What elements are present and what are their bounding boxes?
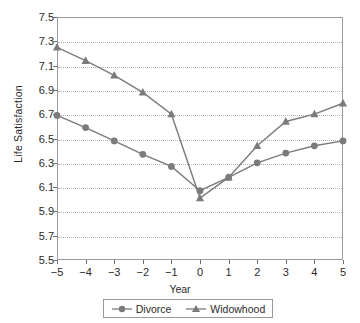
data-point-widowhood--1 bbox=[167, 110, 175, 118]
x-tick-label: 3 bbox=[271, 266, 301, 278]
data-point-divorce-3 bbox=[282, 150, 289, 157]
y-tick-label: 6.1 bbox=[14, 181, 54, 193]
chart-legend: DivorceWidowhood bbox=[103, 299, 273, 318]
y-tick-label: 7.1 bbox=[14, 60, 54, 72]
series-line-widowhood bbox=[57, 47, 343, 198]
x-tick-mark bbox=[229, 260, 230, 264]
legend-label: Widowhood bbox=[210, 303, 265, 315]
y-tick-label: 5.9 bbox=[14, 205, 54, 217]
y-tick-label: 5.7 bbox=[14, 230, 54, 242]
x-tick-mark bbox=[171, 260, 172, 264]
legend-circle-icon bbox=[111, 303, 133, 315]
series-plot-layer bbox=[57, 17, 343, 260]
data-point-divorce--5 bbox=[54, 112, 61, 119]
y-tick-label: 6.3 bbox=[14, 157, 54, 169]
x-tick-label: 2 bbox=[242, 266, 272, 278]
x-tick-mark bbox=[143, 260, 144, 264]
data-point-widowhood--3 bbox=[110, 71, 118, 79]
data-point-widowhood-5 bbox=[339, 99, 347, 107]
x-tick-mark bbox=[200, 260, 201, 264]
legend-entry-divorce[interactable]: Divorce bbox=[111, 303, 172, 315]
x-tick-label: 4 bbox=[299, 266, 329, 278]
x-tick-mark bbox=[343, 260, 344, 264]
x-tick-label: −3 bbox=[99, 266, 129, 278]
x-tick-label: −2 bbox=[128, 266, 158, 278]
data-point-divorce--2 bbox=[139, 151, 146, 158]
y-tick-label: 5.5 bbox=[14, 254, 54, 266]
series-line-divorce bbox=[57, 115, 343, 190]
x-tick-label: 5 bbox=[328, 266, 358, 278]
y-tick-label: 7.5 bbox=[14, 11, 54, 23]
x-tick-label: −4 bbox=[71, 266, 101, 278]
x-tick-label: 1 bbox=[214, 266, 244, 278]
data-point-widowhood--5 bbox=[53, 43, 61, 51]
x-tick-label: −5 bbox=[42, 266, 72, 278]
legend-label: Divorce bbox=[136, 303, 172, 315]
data-point-widowhood-0 bbox=[196, 194, 204, 202]
x-tick-label: −1 bbox=[156, 266, 186, 278]
data-point-divorce--1 bbox=[168, 163, 175, 170]
y-tick-label: 6.5 bbox=[14, 133, 54, 145]
life-satisfaction-line-chart: Life Satisfaction 5.55.75.96.16.36.56.76… bbox=[0, 0, 360, 323]
x-tick-mark bbox=[114, 260, 115, 264]
x-tick-mark bbox=[86, 260, 87, 264]
data-point-widowhood--2 bbox=[139, 88, 147, 96]
x-axis-title: Year bbox=[0, 283, 360, 295]
legend-triangle-icon bbox=[185, 303, 207, 315]
y-tick-label: 7.3 bbox=[14, 35, 54, 47]
y-tick-label: 6.7 bbox=[14, 108, 54, 120]
x-tick-mark bbox=[257, 260, 258, 264]
legend-entry-widowhood[interactable]: Widowhood bbox=[185, 303, 265, 315]
x-tick-mark bbox=[314, 260, 315, 264]
data-point-divorce--4 bbox=[82, 124, 89, 131]
data-point-divorce--3 bbox=[111, 138, 118, 145]
data-point-divorce-4 bbox=[311, 142, 318, 149]
x-tick-label: 0 bbox=[185, 266, 215, 278]
x-tick-mark bbox=[57, 260, 58, 264]
data-point-divorce-5 bbox=[340, 138, 347, 145]
x-tick-mark bbox=[286, 260, 287, 264]
data-point-divorce-2 bbox=[254, 159, 261, 166]
y-tick-label: 6.9 bbox=[14, 84, 54, 96]
